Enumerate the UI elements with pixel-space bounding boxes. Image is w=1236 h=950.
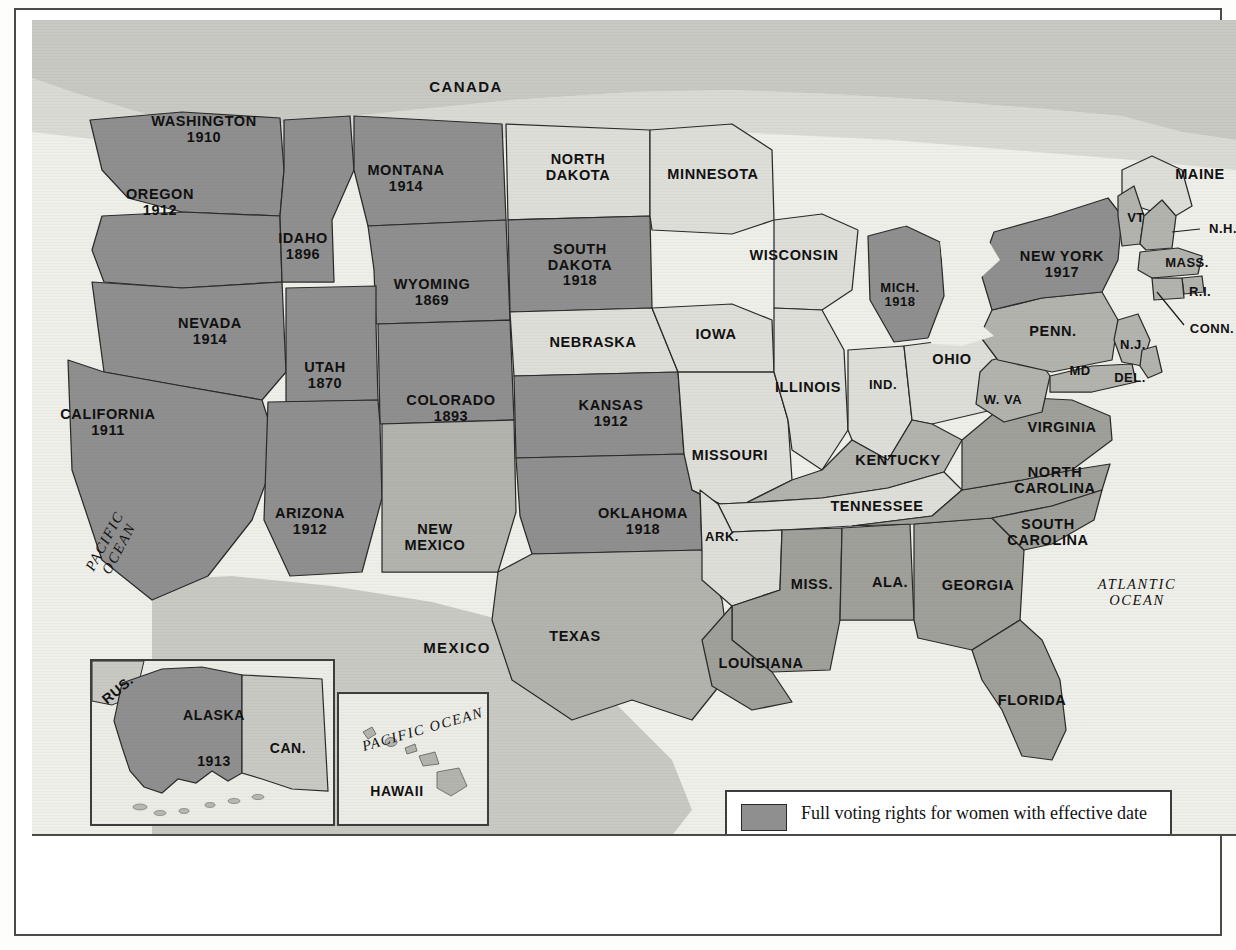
alaska-vector — [92, 661, 333, 824]
page-frame: WASHINGTON1910OREGON1912IDAHO1896MONTANA… — [14, 8, 1222, 936]
inset-hawaii[interactable]: PACIFIC OCEAN HAWAII — [337, 692, 489, 826]
legend-label-full-rights: Full voting rights for women with effect… — [801, 803, 1147, 824]
map-canvas[interactable]: WASHINGTON1910OREGON1912IDAHO1896MONTANA… — [32, 20, 1236, 836]
legend-item[interactable]: Full voting rights for women with effect… — [741, 803, 1170, 831]
map-page: WASHINGTON1910OREGON1912IDAHO1896MONTANA… — [0, 0, 1236, 950]
inset-alaska[interactable]: ALASKA 1913 RUS. CAN. — [90, 659, 335, 826]
map-legend[interactable]: Full voting rights for women with effect… — [725, 790, 1172, 836]
hawaii-vector — [339, 694, 487, 824]
legend-swatch-full-rights — [741, 804, 787, 831]
